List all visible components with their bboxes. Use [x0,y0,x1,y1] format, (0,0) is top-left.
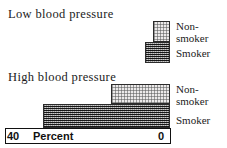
bar-low-smoker [145,42,170,63]
bar-low-nonsmoker [153,21,170,42]
legend-label-high-nonsmoker: Non- smoker [176,84,208,107]
bar-high-smoker [43,104,170,128]
section-title-low-blood-pressure: Low blood pressure [8,7,114,22]
legend-label-high-smoker: Smoker [176,115,210,127]
blood-pressure-smoking-chart: Low blood pressure Non- smoker Smoker Hi… [0,0,227,148]
x-axis-min-tick-label: 0 [158,129,164,143]
legend-label-low-smoker: Smoker [176,48,210,60]
x-axis-max-tick-label: 40 [7,129,19,143]
section-title-high-blood-pressure: High blood pressure [8,70,116,85]
bar-high-nonsmoker [111,84,170,104]
x-axis-strip [5,128,171,144]
legend-label-low-nonsmoker: Non- smoker [176,21,208,44]
x-axis-unit-label: Percent [33,129,73,143]
